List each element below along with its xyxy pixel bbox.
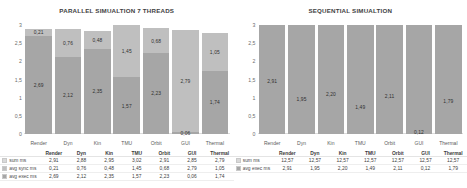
- table-cell: 12,57: [384, 157, 412, 165]
- table-parallel: RenderDynKinTMUOrbitGUIThermal sum ms2,9…: [0, 150, 234, 181]
- bar-column[interactable]: 0,762,12Dyn: [55, 25, 82, 134]
- table-cell: 1,74: [206, 172, 234, 180]
- x-axis-category-label: Orbit: [376, 140, 403, 146]
- table-cell: 1,05: [206, 165, 234, 173]
- table-cell: 12,57: [356, 157, 384, 165]
- bar-value-label: 1,05: [210, 49, 220, 54]
- table-cell: 2,91: [40, 157, 68, 165]
- bar-column[interactable]: 2,91Render: [259, 25, 286, 134]
- table-column-header: Kin: [329, 150, 357, 157]
- bar-column[interactable]: 1,79Thermal: [435, 25, 462, 134]
- y-axis-parallel: 32,521,510,50: [0, 17, 24, 148]
- bar-column[interactable]: 1,051,74Thermal: [202, 25, 229, 134]
- y-axis-tick: 1: [19, 95, 22, 101]
- table-cell: 1,79: [439, 165, 467, 173]
- bar-segment-exec: 2,69: [25, 36, 52, 134]
- bar-value-label: 0,76: [63, 41, 73, 46]
- legend-series-label: avg sync ms: [9, 166, 36, 171]
- table-cell: 0,06: [178, 172, 206, 180]
- bar-value-label: 1,95: [297, 96, 307, 101]
- table-row-header: avg exec ms: [0, 172, 40, 180]
- table-cell: 2,88: [68, 157, 96, 165]
- table-cell: 1,45: [123, 165, 151, 173]
- bar-segment-exec: 2,11: [376, 25, 403, 134]
- bar-segment-exec: 2,23: [143, 53, 170, 134]
- y-axis-tick: 2,5: [15, 40, 22, 46]
- table-cell: 2,79: [206, 157, 234, 165]
- charts-page: PARALLEL SIMUALTION 7 THREADS 32,521,510…: [0, 0, 467, 188]
- bar-segment-exec: 0,06: [172, 132, 199, 134]
- table-cell: 2,91: [274, 165, 302, 173]
- table-cell: 2,23: [151, 172, 179, 180]
- bar-column[interactable]: 0,682,23Orbit: [143, 25, 170, 134]
- table-column-header: Dyn: [68, 150, 96, 157]
- bar-column[interactable]: 1,49TMU: [347, 25, 374, 134]
- legend-series-label: sum ms: [243, 158, 260, 163]
- bar-segment-exec: 2,20: [318, 25, 345, 134]
- table-cell: 1,57: [123, 172, 151, 180]
- bar-segment-exec: 1,79: [435, 25, 462, 134]
- bar-column[interactable]: 2,11Orbit: [376, 25, 403, 134]
- table-cell: 2,69: [40, 172, 68, 180]
- table-column-header: Thermal: [439, 150, 467, 157]
- table-cell: 0,76: [68, 165, 96, 173]
- table-corner-cell: [0, 150, 40, 157]
- bar-value-label: 1,57: [122, 103, 132, 108]
- bar-value-label: 2,11: [385, 93, 395, 98]
- table-cell: 0,21: [40, 165, 68, 173]
- x-axis-category-label: GUI: [172, 140, 199, 146]
- bar-column[interactable]: 2,790,06GUI: [172, 25, 199, 134]
- table-cell: 0,12: [412, 165, 440, 173]
- y-axis-tick: 2,5: [248, 40, 255, 46]
- bar-value-label: 1,49: [355, 104, 365, 109]
- table-row-header: sum ms: [234, 157, 274, 165]
- y-axis-tick: 2: [253, 58, 256, 64]
- y-axis-tick: 0,5: [248, 113, 255, 119]
- legend-swatch-icon: [2, 158, 7, 163]
- data-table-sequential: RenderDynKinTMUOrbitGUIThermal sum ms12,…: [234, 148, 467, 188]
- bar-segment-sync: 0,68: [143, 28, 170, 53]
- bar-segment-exec: 2,12: [55, 57, 82, 134]
- bar-column[interactable]: 0,12GUI: [406, 25, 433, 134]
- table-corner-cell: [234, 150, 274, 157]
- table-column-header: Thermal: [206, 150, 234, 157]
- table-cell: 2,11: [384, 165, 412, 173]
- bar-value-label: 0,06: [181, 130, 191, 135]
- x-axis-category-label: TMU: [113, 140, 140, 146]
- bar-column[interactable]: 0,482,35Kin: [84, 25, 111, 134]
- legend-swatch-icon: [236, 158, 241, 163]
- x-axis-category-label: GUI: [406, 140, 433, 146]
- bar-value-label: 2,20: [326, 92, 336, 97]
- data-table-parallel: RenderDynKinTMUOrbitGUIThermal sum ms2,9…: [0, 148, 234, 188]
- bar-value-label: 1,74: [210, 100, 220, 105]
- bar-column[interactable]: 2,20Kin: [318, 25, 345, 134]
- bar-segment-sync: 2,79: [172, 30, 199, 131]
- legend-swatch-icon: [236, 166, 241, 171]
- y-axis-sequential: 32,521,510,50: [234, 17, 258, 148]
- table-column-header: Orbit: [384, 150, 412, 157]
- chart-panel-sequential: SEQUENTIAL SIMUALTION 32,521,510,50 2,91…: [234, 0, 467, 188]
- x-axis-category-label: Dyn: [55, 140, 82, 146]
- table-head: RenderDynKinTMUOrbitGUIThermal: [0, 150, 234, 157]
- legend-series-label: sum ms: [9, 158, 26, 163]
- table-cell: 12,57: [301, 157, 329, 165]
- bar-segment-exec: 0,12: [406, 25, 433, 134]
- x-axis-category-label: Dyn: [288, 140, 315, 146]
- bar-value-label: 0,21: [34, 30, 44, 35]
- table-column-header: Kin: [95, 150, 123, 157]
- bar-column[interactable]: 0,212,69Render: [25, 25, 52, 134]
- table-cell: 2,12: [68, 172, 96, 180]
- bar-column[interactable]: 1,451,57TMU: [113, 25, 140, 134]
- bar-value-label: 0,12: [414, 129, 424, 134]
- y-axis-tick: 0: [19, 131, 22, 137]
- table-cell: 12,57: [412, 157, 440, 165]
- bar-segment-exec: 1,74: [202, 71, 229, 134]
- table-column-header: TMU: [356, 150, 384, 157]
- plot-area-parallel: 32,521,510,50 0,212,69Render0,762,12Dyn0…: [0, 17, 234, 148]
- bar-segment-sync: 1,05: [202, 33, 229, 71]
- bar-value-label: 2,69: [34, 83, 44, 88]
- bar-column[interactable]: 1,95Dyn: [288, 25, 315, 134]
- table-cell: 2,79: [178, 165, 206, 173]
- bar-segment-exec: 1,49: [347, 25, 374, 134]
- y-axis-tick: 0: [253, 131, 256, 137]
